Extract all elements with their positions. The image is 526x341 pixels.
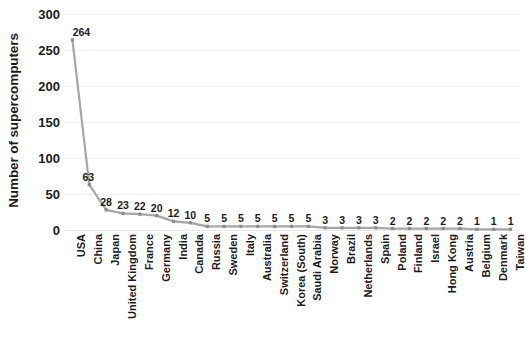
data-point-marker (475, 228, 478, 231)
y-tick-label: 150 (24, 116, 60, 129)
series-line (64, 14, 519, 230)
x-tick-label-text: Norway (329, 234, 340, 274)
x-tick-label-text: Germany (161, 234, 172, 282)
data-point-marker (290, 225, 293, 228)
x-tick-label-text: Russia (211, 234, 222, 270)
data-label: 28 (100, 196, 112, 207)
data-label: 5 (255, 213, 261, 224)
data-point-marker (408, 227, 411, 230)
x-tick-label-text: Korea (South) (296, 234, 307, 307)
data-label: 3 (339, 214, 345, 225)
plot-area: 264632823222012105555555333322222111 (64, 14, 519, 230)
data-point-marker (138, 213, 141, 216)
y-tick-label: 250 (24, 44, 60, 57)
data-point-marker (509, 228, 512, 231)
x-tick-label-text: India (178, 234, 189, 260)
y-tick-label: 200 (24, 80, 60, 93)
data-point-marker (458, 227, 461, 230)
data-label: 2 (457, 215, 463, 226)
x-tick-label-text: United Kingdom (127, 234, 138, 319)
data-label: 2 (440, 215, 446, 226)
x-tick-label-text: Taiwan (515, 234, 526, 270)
data-label: 63 (82, 171, 94, 182)
data-point-marker (374, 226, 377, 229)
x-tick-label-text: Saudi Arabia (312, 234, 323, 301)
y-axis-title-text: Number of supercomputers (6, 33, 21, 208)
data-point-marker (105, 208, 108, 211)
data-point-marker (273, 225, 276, 228)
data-label: 2 (407, 215, 413, 226)
data-point-marker (239, 225, 242, 228)
x-tick-label-text: Italy (245, 234, 256, 256)
data-point-marker (189, 221, 192, 224)
x-tick-label-text: China (93, 234, 104, 265)
data-point-marker (155, 214, 158, 217)
data-label: 5 (305, 213, 311, 224)
data-point-marker (88, 183, 91, 186)
data-label: 5 (221, 213, 227, 224)
data-point-marker (172, 220, 175, 223)
x-tick-label-text: Israel (430, 234, 441, 263)
x-tick-label-text: Finland (413, 234, 424, 273)
data-point-marker (492, 228, 495, 231)
x-tick-label-text: Austria (464, 234, 475, 272)
x-tick-label-text: Spain (380, 234, 391, 264)
y-tick-label: 50 (24, 188, 60, 201)
x-tick-label-text: Netherlands (363, 234, 374, 298)
data-label: 2 (423, 215, 429, 226)
data-label: 3 (373, 214, 379, 225)
x-tick-label-text: Denmark (498, 234, 509, 281)
data-label: 2 (390, 215, 396, 226)
data-label: 5 (289, 213, 295, 224)
x-tick-label-text: USA (76, 234, 87, 257)
data-point-marker (357, 226, 360, 229)
data-label: 10 (185, 209, 197, 220)
data-label: 23 (117, 200, 129, 211)
x-tick-label-text: Hong Kong (447, 234, 458, 293)
x-tick-label-text: Belgium (481, 234, 492, 277)
data-label: 22 (134, 201, 146, 212)
y-axis-title: Number of supercomputers (0, 0, 26, 240)
data-point-marker (324, 226, 327, 229)
x-axis-tick-labels: USAChinaJapanUnited KingdomFranceGermany… (64, 232, 519, 341)
data-label: 1 (491, 216, 497, 227)
data-label: 264 (73, 26, 91, 37)
data-point-marker (71, 38, 74, 41)
data-point-marker (340, 226, 343, 229)
y-tick-label: 300 (24, 8, 60, 21)
data-point-marker (256, 225, 259, 228)
x-tick-label-text: Sweden (228, 234, 239, 276)
y-tick-label: 100 (24, 152, 60, 165)
data-label: 1 (474, 216, 480, 227)
data-label: 5 (204, 213, 210, 224)
data-point-marker (425, 227, 428, 230)
x-tick-label-text: Japan (110, 234, 121, 266)
data-point-marker (121, 212, 124, 215)
data-point-marker (307, 225, 310, 228)
data-label: 5 (238, 213, 244, 224)
data-label: 20 (151, 202, 163, 213)
data-point-marker (391, 227, 394, 230)
x-tick-label-text: France (144, 234, 155, 270)
y-tick-label: 0 (24, 224, 60, 237)
x-tick-label-text: Canada (194, 234, 205, 274)
data-label: 3 (322, 214, 328, 225)
data-label: 12 (168, 208, 180, 219)
data-label: 3 (356, 214, 362, 225)
x-tick-label-text: Australia (262, 234, 273, 281)
gridline (64, 230, 519, 231)
y-axis-tick-labels: 300250200150100500 (24, 14, 60, 230)
data-label: 1 (508, 216, 514, 227)
x-tick-label-text: Brazil (346, 234, 357, 264)
data-point-marker (442, 227, 445, 230)
x-tick-label-text: Poland (397, 234, 408, 271)
x-tick-label-text: Switzerland (279, 234, 290, 295)
data-point-marker (206, 225, 209, 228)
data-label: 5 (272, 213, 278, 224)
data-point-marker (222, 225, 225, 228)
